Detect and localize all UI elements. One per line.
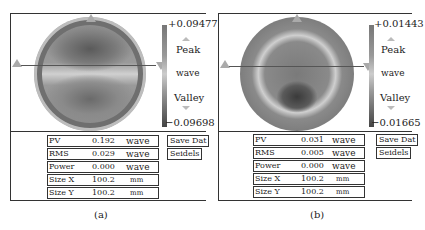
colorbar-min: −0.01665 (371, 117, 421, 128)
stat-row-power: Power 0.000 wave (47, 161, 159, 173)
stat-row-size-x: Size X 100.2 mm (253, 173, 365, 185)
valley-label: Valley (380, 92, 410, 103)
frame-top (10, 13, 206, 14)
stat-row-pv: PV 0.031 wave (253, 134, 365, 146)
top-marker-icon[interactable] (292, 14, 302, 22)
panel-a: +0.09477 Peak wave Valley −0.09698 PV 0.… (10, 13, 206, 201)
frame-bottom (10, 200, 206, 201)
panel-b: +0.01443 Peak wave Valley −0.01665 PV 0.… (218, 13, 412, 201)
caption-b: (b) (310, 209, 324, 220)
frame-left (10, 13, 11, 201)
seidels-button[interactable]: Seidels (376, 147, 411, 159)
left-marker-icon[interactable] (220, 60, 230, 68)
peak-arrow-icon (182, 37, 190, 41)
peak-label: Peak (176, 44, 200, 55)
frame-top (218, 13, 412, 14)
colorbar-max: +0.01443 (374, 18, 424, 29)
frame-bottom (218, 200, 412, 201)
stat-row-size-x: Size X 100.2 mm (47, 174, 159, 186)
colorbar-min: −0.09698 (165, 117, 215, 128)
left-marker-icon[interactable] (12, 59, 22, 67)
unit-label: wave (176, 68, 199, 78)
stat-row-power: Power 0.000 wave (253, 160, 365, 172)
profile-line[interactable] (224, 66, 364, 67)
seidels-button[interactable]: Seidels (167, 148, 202, 160)
frame-divider (10, 131, 206, 132)
peak-arrow-icon (387, 37, 395, 41)
valley-arrow-icon (182, 106, 190, 110)
save-data-button[interactable]: Save Dat (376, 134, 418, 146)
stat-row-rms: RMS 0.005 wave (253, 147, 365, 159)
colorbar-max: +0.09477 (168, 18, 218, 29)
valley-arrow-icon (387, 106, 395, 110)
colorbar (162, 25, 167, 127)
save-data-button[interactable]: Save Dat (167, 135, 209, 147)
stat-row-size-y: Size Y 100.2 mm (47, 187, 159, 199)
caption-a: (a) (94, 209, 108, 220)
profile-line[interactable] (16, 65, 156, 66)
stat-row-pv: PV 0.192 wave (47, 135, 159, 147)
stat-row-rms: RMS 0.029 wave (47, 148, 159, 160)
stat-row-size-y: Size Y 100.2 mm (253, 186, 365, 198)
wavefront-map (34, 17, 146, 131)
unit-label: wave (381, 68, 404, 78)
colorbar (369, 25, 374, 127)
peak-label: Peak (381, 44, 405, 55)
valley-label: Valley (174, 92, 204, 103)
frame-divider (218, 131, 412, 132)
wavefront-map (240, 17, 354, 131)
top-marker-icon[interactable] (86, 14, 96, 22)
frame-left (218, 13, 219, 201)
